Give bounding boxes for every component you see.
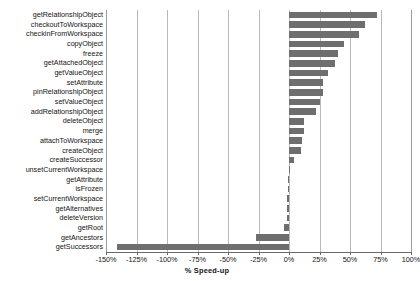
category-label: createSuccessor — [49, 155, 103, 165]
category-label: getAlternatives — [55, 204, 103, 214]
bar-row — [106, 58, 411, 68]
bar — [288, 186, 289, 193]
category-label: merge — [83, 126, 103, 136]
bar — [117, 244, 289, 251]
bar — [289, 118, 304, 125]
tick-label--100: -100% — [156, 255, 177, 264]
category-label: setAttribute — [67, 78, 103, 88]
bar-row — [106, 175, 411, 185]
bar-row — [106, 194, 411, 204]
tick-label-25: 25% — [312, 255, 327, 264]
bar — [289, 166, 290, 173]
bar — [289, 137, 302, 144]
x-axis-title: % Speed-up — [0, 266, 414, 275]
category-axis-labels: getRelationshipObjectcheckoutToWorkspace… — [0, 10, 103, 252]
tick-label--150: -150% — [95, 255, 116, 264]
tick-label--75: -75% — [189, 255, 206, 264]
category-label: deleteObject — [63, 116, 103, 126]
bar-row — [106, 78, 411, 88]
bar-row — [106, 126, 411, 136]
category-label: getValueObject — [54, 68, 103, 78]
bar-row — [106, 233, 411, 243]
bar — [289, 50, 338, 57]
category-label: getAttachedObject — [44, 58, 103, 68]
bar — [287, 215, 289, 222]
category-label: checkoutToWorkspace — [31, 20, 103, 30]
category-label: createObject — [62, 146, 103, 156]
bar-row — [106, 242, 411, 252]
bar — [288, 176, 289, 183]
bar-row — [106, 20, 411, 30]
category-label: getAncestors — [61, 233, 103, 243]
bar — [289, 128, 304, 135]
category-label: unsetCurrentWorkspace — [26, 165, 103, 175]
bar-row — [106, 97, 411, 107]
category-label: addRelationshipObject — [31, 107, 103, 117]
category-label: pinRelationshipObject — [33, 87, 103, 97]
bar-row — [106, 10, 411, 20]
bar-row — [106, 213, 411, 223]
bar-row — [106, 116, 411, 126]
category-label: getRoot — [78, 223, 103, 233]
tick-label-50: 50% — [343, 255, 358, 264]
category-label: getRelationshipObject — [33, 10, 103, 20]
bar-row — [106, 107, 411, 117]
bar — [289, 21, 365, 28]
category-label: freeze — [83, 49, 103, 59]
bar-row — [106, 223, 411, 233]
bar — [289, 79, 323, 86]
tick-label--25: -25% — [250, 255, 267, 264]
bar-row — [106, 29, 411, 39]
category-label: copyObject — [67, 39, 103, 49]
category-label: checkinFromWorkspace — [26, 29, 103, 39]
bar-row — [106, 87, 411, 97]
bar-row — [106, 49, 411, 59]
bar-row — [106, 204, 411, 214]
plot-area — [106, 10, 411, 252]
tick-label-0: 0% — [284, 255, 295, 264]
tick-label-100: 100% — [402, 255, 420, 264]
bar — [289, 31, 359, 38]
bar-row — [106, 39, 411, 49]
bar — [289, 99, 320, 106]
bar-row — [106, 68, 411, 78]
bar — [289, 60, 335, 67]
bar — [284, 224, 289, 231]
category-label: getSuccessors — [56, 242, 103, 252]
tick-label--125: -125% — [126, 255, 147, 264]
category-label: getAttribute — [66, 175, 103, 185]
bar — [289, 70, 328, 77]
bar — [287, 195, 289, 202]
category-label: attachToWorkspace — [40, 136, 103, 146]
bar — [289, 12, 377, 19]
bar — [289, 147, 301, 154]
tick-label--50: -50% — [219, 255, 236, 264]
bar-row — [106, 136, 411, 146]
bar-row — [106, 155, 411, 165]
gridline-100 — [411, 10, 412, 252]
bar — [289, 108, 316, 115]
category-label: setCurrentWorkspace — [34, 194, 103, 204]
bar — [289, 41, 344, 48]
category-label: deleteVersion — [59, 213, 103, 223]
bar — [289, 89, 323, 96]
bar-row — [106, 184, 411, 194]
tick-label-75: 75% — [373, 255, 388, 264]
category-label: setValueObject — [55, 97, 103, 107]
bar-row — [106, 165, 411, 175]
category-label: isFrozen — [75, 184, 103, 194]
bar — [256, 234, 289, 241]
bar — [287, 205, 289, 212]
bar — [289, 157, 294, 164]
bar-row — [106, 146, 411, 156]
